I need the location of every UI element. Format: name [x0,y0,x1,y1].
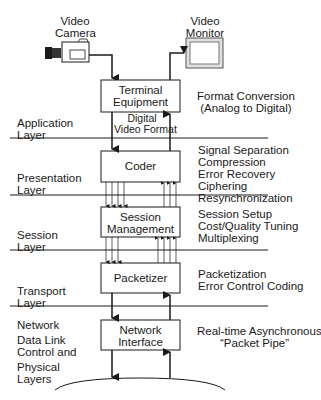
box-line: Management [101,223,180,235]
terminal-equipment-label: Terminal Equipment [101,84,180,108]
box-line: Packetizer [101,272,180,284]
layer-line: Layer [17,297,66,309]
transport-layer-label: Transport Layer [17,285,66,309]
connector-label-line: Video Format [114,124,170,135]
function-line: Ciphering [198,180,293,192]
camera-label-line1: Video [55,15,95,27]
network-interface-label: Network Interface [101,324,180,348]
layer-line: Presentation [17,172,82,184]
layer-line: Application [17,117,73,129]
layer-line: Session [17,229,58,241]
layer-line: Transport [17,285,66,297]
function-line: “Packet Pipe” [197,337,312,349]
monitor-label-line1: Video [183,15,227,27]
terminal-to-monitor-arrow [170,53,184,80]
function-line: Multiplexing [198,232,298,244]
coder-to-session-arrows [106,182,124,206]
function-line: Session Setup [198,208,298,220]
box-line: Equipment [101,96,180,108]
terminal-functions: Format Conversion (Analog to Digital) [197,90,295,114]
function-line: Packetization [198,268,303,280]
session-management-label: Session Management [101,211,180,235]
camera-label-line2: Camera [55,27,95,39]
session-functions: Session Setup Cost/Quality Tuning Multip… [198,208,298,244]
layer-line: Layer [17,129,73,141]
packetizer-functions: Packetization Error Control Coding [198,268,303,292]
layer-line: Control and [17,346,76,358]
layer-line: Layers [17,373,76,385]
box-line: Network [101,324,180,336]
coder-label: Coder [101,160,180,172]
layer-line: Physical [17,361,76,373]
monitor-label-line2: Monitor [183,27,227,39]
network-layers-label: Network Data Link Control and Physical L… [17,319,76,385]
function-line: Format Conversion [197,90,295,102]
digital-video-format-label: Digital Video Format [114,113,170,135]
box-line: Terminal [101,84,180,96]
box-line: Interface [101,336,180,348]
function-line: Resynchronization [198,192,293,204]
function-line: Error Recovery [198,168,293,180]
presentation-layer-label: Presentation Layer [17,172,82,196]
layer-line: Network [17,319,76,331]
function-line: Real-time Asynchronous [197,325,312,337]
camera-to-terminal-arrow [89,55,112,78]
function-line: (Analog to Digital) [197,102,295,114]
layer-line: Data Link [17,334,76,346]
video-camera-icon [45,39,89,62]
function-line: Signal Separation [198,144,293,156]
function-line: Error Control Coding [198,280,303,292]
network-arc [55,378,225,390]
application-layer-label: Application Layer [17,117,73,141]
video-monitor-icon [186,38,223,68]
network-functions: Real-time Asynchronous “Packet Pipe” [197,325,312,349]
function-line: Cost/Quality Tuning [198,220,298,232]
layer-line: Layer [17,241,58,253]
monitor-label: Video Monitor [183,15,227,39]
box-line: Session [101,211,180,223]
camera-label: Video Camera [55,15,95,39]
session-layer-label: Session Layer [17,229,58,253]
function-line: Compression [198,156,293,168]
box-line: Coder [101,160,180,172]
packetizer-label: Packetizer [101,272,180,284]
layer-line: Layer [17,184,82,196]
coder-functions: Signal Separation Compression Error Reco… [198,144,293,204]
